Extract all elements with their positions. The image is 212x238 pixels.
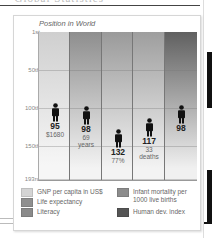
rank-value: 98 [70,125,102,134]
decorative-rule [203,0,204,238]
rank-value: 117 [133,137,165,146]
rank-value: 95 [39,122,71,131]
person-icon [51,103,60,122]
person-icon [82,106,91,125]
detail-value: $1680 [39,131,71,138]
marker-infant-mortality: 117 33 deaths [133,118,165,160]
decorative-bar [207,170,212,224]
legend-item-infant-mortality: Infant mortality per1000 live births [117,188,187,206]
decorative-bar [207,52,212,108]
legend-swatch [117,188,129,197]
rank-value: 132 [102,148,134,157]
marker-life-expectancy: 98 69 years [70,106,102,148]
legend-swatch [21,188,33,197]
decorative-bar [204,222,212,224]
legend-label: Literacy [37,208,60,216]
person-icon [114,129,123,148]
chart-title: Position in World [39,19,95,28]
detail-unit: deaths [133,153,165,160]
person-icon [145,118,154,137]
legend-label: Infant mortality per1000 live births [133,188,187,204]
legend-swatch [21,198,33,207]
person-icon [177,105,186,124]
gridline-193rd [39,179,197,180]
rank-value: 98 [165,124,197,133]
detail-unit: years [70,141,102,148]
legend-label: Life expectancy [37,198,82,206]
decorative-rule [0,218,14,224]
page-header: • Global Statistics [0,0,200,6]
detail-value: 77% [102,157,134,164]
legend-label: GNP per capita in US$ [37,188,103,196]
detail-value: 69 [70,134,102,141]
marker-literacy: 132 77% [102,129,134,164]
legend-item-gnp: GNP per capita in US$ [21,188,103,197]
marker-human-dev-index: 98 [165,105,197,133]
legend-label: Human dev. index [133,208,185,216]
chart-card: Position in World 1st 50th 100th 150th 1… [13,15,201,231]
plot-area: 95 $1680 98 69 years 132 77% 117 33 deat… [38,32,197,181]
legend-item-human-dev-index: Human dev. index [117,208,185,217]
detail-value: 33 [133,146,165,153]
page-header-text: • Global Statistics [6,0,104,4]
legend-label-line: Infant mortality per [133,188,187,195]
legend-label-line: 1000 live births [133,196,177,203]
legend-swatch [21,208,33,217]
marker-gnp: 95 $1680 [39,103,71,138]
legend-item-literacy: Literacy [21,208,60,217]
legend-swatch [117,208,129,217]
gridline-50th [39,70,197,71]
legend-item-life-expectancy: Life expectancy [21,198,82,207]
